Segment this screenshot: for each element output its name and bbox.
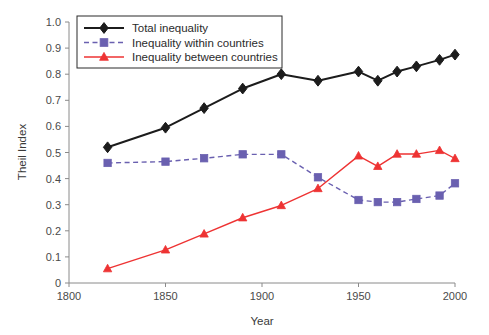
data-point-marker <box>238 83 246 94</box>
data-point-marker <box>435 54 443 65</box>
chart-legend: Total inequalityInequality within countr… <box>77 16 282 68</box>
y-tick-label: 0.8 <box>46 68 61 80</box>
legend-item-0[interactable]: Total inequality <box>84 22 208 34</box>
legend-item-label: Total inequality <box>132 22 208 34</box>
x-tick-label: 1850 <box>153 290 177 302</box>
y-axis-title: Theil Index <box>16 124 28 181</box>
y-axis-ticks: 00.10.20.30.40.50.60.70.80.91.0 <box>46 16 69 289</box>
data-point-marker <box>161 122 169 133</box>
y-tick-label: 0.2 <box>46 225 61 237</box>
y-tick-label: 1.0 <box>46 16 61 28</box>
data-point-marker <box>200 103 208 114</box>
series-line <box>108 154 455 202</box>
data-point-marker <box>314 174 321 181</box>
data-point-marker <box>355 196 362 203</box>
data-point-marker <box>451 154 459 162</box>
data-point-marker <box>104 159 111 166</box>
data-point-marker <box>314 184 322 192</box>
data-point-marker <box>278 151 285 158</box>
y-tick-label: 0.6 <box>46 120 61 132</box>
series-line <box>108 150 455 268</box>
x-axis-ticks: 18001850190019502000 <box>57 283 467 302</box>
data-point-marker <box>412 61 420 72</box>
x-tick-label: 1950 <box>346 290 370 302</box>
y-tick-label: 0.7 <box>46 94 61 106</box>
legend-item-label: Inequality within countries <box>132 37 264 49</box>
y-tick-label: 0.1 <box>46 251 61 263</box>
data-point-marker <box>451 180 458 187</box>
data-point-marker <box>393 198 400 205</box>
x-tick-label: 1900 <box>250 290 274 302</box>
theil-index-line-chart: 00.10.20.30.40.50.60.70.80.91.0 18001850… <box>0 0 489 335</box>
data-series <box>103 49 459 272</box>
data-point-marker <box>435 146 443 154</box>
chart-canvas: 00.10.20.30.40.50.60.70.80.91.0 18001850… <box>0 0 489 335</box>
data-point-marker <box>100 39 108 47</box>
data-point-marker <box>393 66 401 77</box>
data-point-marker <box>277 69 285 80</box>
data-point-marker <box>451 49 459 60</box>
data-point-marker <box>354 66 362 77</box>
y-tick-label: 0.3 <box>46 199 61 211</box>
y-tick-label: 0 <box>55 277 61 289</box>
data-point-marker <box>239 151 246 158</box>
data-point-marker <box>314 75 322 86</box>
series-2 <box>103 146 459 272</box>
data-point-marker <box>374 162 382 170</box>
data-point-marker <box>103 142 111 153</box>
x-tick-label: 1800 <box>57 290 81 302</box>
data-point-marker <box>436 192 443 199</box>
data-point-marker <box>374 198 381 205</box>
data-point-marker <box>413 195 420 202</box>
data-point-marker <box>374 75 382 86</box>
y-tick-label: 0.4 <box>46 173 61 185</box>
data-point-marker <box>162 158 169 165</box>
legend-item-label: Inequality between countries <box>132 51 278 63</box>
y-tick-label: 0.5 <box>46 147 61 159</box>
series-1 <box>104 151 459 206</box>
data-point-marker <box>200 155 207 162</box>
data-point-marker <box>354 151 362 159</box>
x-axis-title: Year <box>250 315 273 327</box>
y-tick-label: 0.9 <box>46 42 61 54</box>
x-tick-label: 2000 <box>443 290 467 302</box>
